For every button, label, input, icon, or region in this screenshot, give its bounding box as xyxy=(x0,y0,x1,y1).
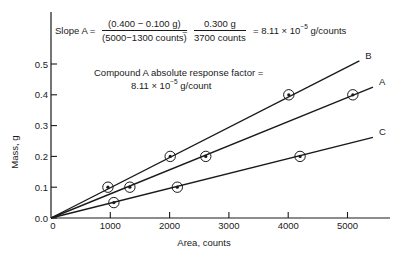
data-point-dot xyxy=(351,93,354,96)
x-axis-label: Area, counts xyxy=(177,237,231,248)
slope-result-value: = 8.11 × 10 xyxy=(253,25,300,36)
data-point-dot xyxy=(106,186,109,189)
y-tick-label: 0.4 xyxy=(35,89,48,100)
x-tick-label: 5000 xyxy=(337,220,358,231)
y-tick-label: 0.1 xyxy=(35,182,48,193)
series-c: C xyxy=(51,126,386,218)
slope-fraction-1: (0.400 − 0.100 g) (5000−1300 counts) xyxy=(102,19,187,42)
series-label: A xyxy=(379,76,386,87)
fraction-1-numerator: (0.400 − 0.100 g) xyxy=(102,19,187,31)
y-tick-label: 0.3 xyxy=(35,120,48,131)
y-tick-label: 0.0 xyxy=(35,213,48,224)
data-point-dot xyxy=(176,186,179,189)
data-point-dot xyxy=(112,201,115,204)
response-factor-value: 8.11 × 10−5 g/count xyxy=(131,81,211,91)
data-point-dot xyxy=(204,155,207,158)
y-axis-label: Mass, g xyxy=(9,135,20,168)
slope-result-exponent: −5 xyxy=(300,23,307,30)
series-label: B xyxy=(365,50,371,61)
x-tick-label: 1000 xyxy=(100,220,121,231)
fraction-2-numerator: 0.300 g xyxy=(194,19,246,31)
response-factor-unit: g/count xyxy=(178,80,212,91)
data-point-dot xyxy=(169,155,172,158)
data-point-dot xyxy=(128,186,131,189)
slope-result-unit: g/counts xyxy=(308,25,347,36)
slope-label: Slope A = xyxy=(55,26,95,36)
x-tick-label: 0 xyxy=(50,220,55,231)
y-tick-label: 0.2 xyxy=(35,151,48,162)
response-factor-exponent: −5 xyxy=(170,78,177,85)
data-point-dot xyxy=(287,93,290,96)
axes xyxy=(51,12,390,218)
x-ticks: 010002000300040005000 xyxy=(50,212,358,231)
slope-result: = 8.11 × 10−5 g/counts xyxy=(253,26,346,36)
series-label: C xyxy=(379,126,386,137)
x-tick-label: 2000 xyxy=(159,220,180,231)
equals-sign: = xyxy=(182,26,188,36)
y-ticks: 0.00.10.20.30.40.5 xyxy=(35,59,57,224)
response-factor-label: Compound A absolute response factor = xyxy=(94,68,263,78)
data-point-dot xyxy=(298,155,301,158)
x-tick-label: 3000 xyxy=(218,220,239,231)
fraction-2-denominator: 3700 counts xyxy=(194,31,246,43)
line-c xyxy=(51,137,373,218)
x-tick-label: 4000 xyxy=(278,220,299,231)
line-a xyxy=(51,87,373,218)
fraction-1-denominator: (5000−1300 counts) xyxy=(102,31,187,43)
slope-fraction-2: 0.300 g 3700 counts xyxy=(194,19,246,42)
y-tick-label: 0.5 xyxy=(35,59,48,70)
response-factor-number: 8.11 × 10 xyxy=(131,80,170,91)
